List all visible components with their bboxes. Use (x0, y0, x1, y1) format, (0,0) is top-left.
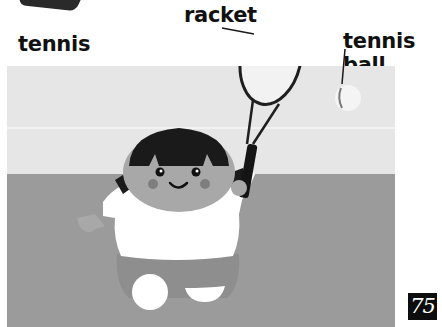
right-hand (231, 180, 247, 196)
racket-label: racket (184, 3, 257, 27)
tennis-scene-illustration (7, 66, 395, 327)
left-cheek (148, 179, 158, 189)
page-number-badge: 75 (408, 293, 437, 320)
left-hand-icon (77, 214, 105, 232)
right-cheek (200, 179, 210, 189)
racket-leader-line (222, 28, 254, 34)
cropped-illustration-fragment (16, 0, 82, 11)
girl-illustration (7, 66, 395, 327)
foot-ball-shape (132, 274, 168, 310)
hair (129, 128, 229, 166)
right-foot (185, 286, 225, 302)
tennis-ball-icon (335, 85, 361, 111)
racket-icon (232, 66, 310, 198)
scene-title: tennis (18, 32, 90, 56)
